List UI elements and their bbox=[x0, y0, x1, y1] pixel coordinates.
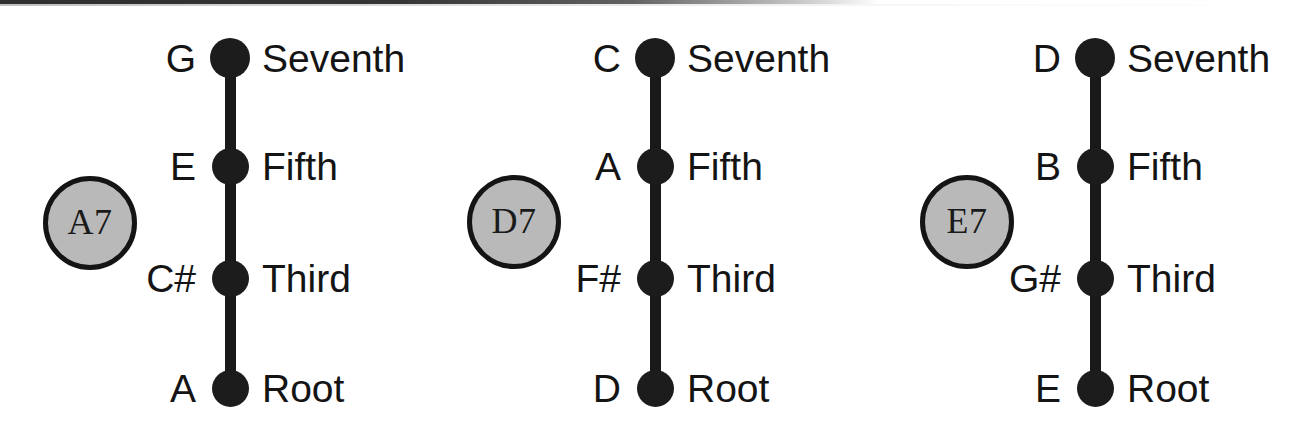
chord-tone-node[interactable] bbox=[1075, 38, 1115, 78]
interval-name-label: Third bbox=[1127, 259, 1216, 298]
interval-name-label: Seventh bbox=[1127, 39, 1270, 78]
chord-stem bbox=[1090, 58, 1101, 388]
chord-diagram-e7: E7DSeventhBFifthG#ThirdERoot bbox=[0, 0, 1304, 437]
chord-badge[interactable]: E7 bbox=[920, 175, 1014, 269]
chord-tone-node[interactable] bbox=[1077, 260, 1114, 297]
interval-name-label: Root bbox=[1127, 369, 1209, 408]
chord-badge-label: E7 bbox=[947, 203, 988, 241]
note-name-label: B bbox=[1035, 147, 1061, 186]
chord-tone-node[interactable] bbox=[1077, 148, 1114, 185]
note-name-label: D bbox=[1033, 39, 1061, 78]
chord-tone-node[interactable] bbox=[1077, 370, 1114, 407]
interval-name-label: Fifth bbox=[1127, 147, 1203, 186]
chord-diagram-figure: A7GSeventhEFifthC#ThirdARootD7CSeventhAF… bbox=[0, 0, 1304, 437]
note-name-label: E bbox=[1035, 369, 1061, 408]
note-name-label: G# bbox=[1009, 259, 1061, 298]
